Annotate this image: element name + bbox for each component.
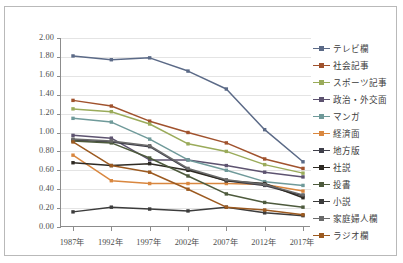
data-point-marker xyxy=(148,182,151,185)
data-point-marker xyxy=(263,201,266,204)
legend-color-swatch xyxy=(313,78,330,87)
data-point-marker xyxy=(110,110,113,113)
y-axis-tick-label: 1.40 xyxy=(39,89,54,98)
plot-area xyxy=(60,38,310,227)
legend-item[interactable]: マンガ xyxy=(313,108,360,124)
data-point-marker xyxy=(301,175,304,178)
legend-item[interactable]: 社説 xyxy=(313,159,351,175)
data-point-marker xyxy=(186,131,189,134)
series-テレビ欄 xyxy=(71,54,304,163)
legend-color-swatch xyxy=(313,163,330,172)
legend-item-label: 経済面 xyxy=(333,127,360,139)
legend-marker-icon xyxy=(319,97,324,102)
legend-color-swatch xyxy=(313,112,330,121)
legend-item[interactable]: テレビ欄 xyxy=(313,40,369,56)
data-point-marker xyxy=(225,169,228,172)
legend-item[interactable]: 政治・外交面 xyxy=(313,91,386,107)
data-point-marker xyxy=(263,128,266,131)
legend-color-swatch xyxy=(313,231,330,240)
legend-item[interactable]: 経済面 xyxy=(313,125,360,141)
y-axis-labels: 0.000.200.400.600.801.001.201.401.601.80… xyxy=(5,38,54,227)
x-axis-tick-label: 2007年 xyxy=(213,235,238,247)
data-point-marker xyxy=(71,153,74,156)
data-point-marker xyxy=(186,69,189,72)
data-point-marker xyxy=(263,183,266,186)
data-point-marker xyxy=(263,208,266,211)
chart-legend: テレビ欄社会記事スポーツ記事政治・外交面マンガ経済面地方版社説投書小説家庭婦人欄… xyxy=(313,40,399,248)
data-point-marker xyxy=(148,137,151,140)
data-point-marker xyxy=(71,161,74,164)
data-point-marker xyxy=(186,167,189,170)
legend-color-swatch xyxy=(313,197,330,206)
legend-item-label: 地方版 xyxy=(333,144,360,156)
data-point-marker xyxy=(71,117,74,120)
legend-item[interactable]: 地方版 xyxy=(313,142,360,158)
legend-item[interactable]: 社会記事 xyxy=(313,57,369,73)
data-point-marker xyxy=(110,205,113,208)
legend-item-label: ラジオ欄 xyxy=(333,229,369,241)
data-point-marker xyxy=(186,158,189,161)
legend-item-label: スポーツ記事 xyxy=(333,76,386,88)
y-axis-tick-label: 0.00 xyxy=(39,222,54,231)
legend-marker-icon xyxy=(319,216,324,221)
x-axis-tick-label: 2017年 xyxy=(290,235,315,247)
data-point-marker xyxy=(148,144,151,147)
x-axis-labels: 1987年1992年1997年2002年2007年2012年2017年 xyxy=(60,233,310,249)
data-point-marker xyxy=(301,213,304,216)
series-投書 xyxy=(71,139,304,209)
data-point-marker xyxy=(71,134,74,137)
legend-item-label: 政治・外交面 xyxy=(333,93,386,105)
data-point-marker xyxy=(71,54,74,57)
x-axis-tick xyxy=(226,227,227,231)
plot-area-wrapper xyxy=(60,38,310,227)
legend-item[interactable]: 投書 xyxy=(313,176,351,192)
y-axis-tick-label: 0.20 xyxy=(39,203,54,212)
data-point-marker xyxy=(225,178,228,181)
legend-marker-icon xyxy=(319,165,324,170)
legend-item[interactable]: 家庭婦人欄 xyxy=(313,210,378,226)
data-point-marker xyxy=(186,182,189,185)
legend-color-swatch xyxy=(313,146,330,155)
data-point-marker xyxy=(110,120,113,123)
data-point-marker xyxy=(148,162,151,165)
legend-item[interactable]: ラジオ欄 xyxy=(313,227,369,243)
y-axis-tick-label: 2.00 xyxy=(39,33,54,42)
data-point-marker xyxy=(110,58,113,61)
legend-item-label: 社説 xyxy=(333,161,351,173)
legend-marker-icon xyxy=(319,199,324,204)
legend-item-label: 投書 xyxy=(333,178,351,190)
data-point-marker xyxy=(186,174,189,177)
data-point-marker xyxy=(71,140,74,143)
data-point-marker xyxy=(225,150,228,153)
x-axis-tick xyxy=(188,227,189,231)
legend-item[interactable]: 小説 xyxy=(313,193,351,209)
data-point-marker xyxy=(186,209,189,212)
y-axis-tick-label: 0.80 xyxy=(39,146,54,155)
data-point-marker xyxy=(186,188,189,191)
series-line xyxy=(73,141,303,207)
legend-marker-icon xyxy=(319,80,324,85)
legend-item-label: 家庭婦人欄 xyxy=(333,212,378,224)
series-小説 xyxy=(71,205,304,217)
chart-screenshot: 0.000.200.400.600.801.001.201.401.601.80… xyxy=(0,0,403,263)
legend-marker-icon xyxy=(319,182,324,187)
data-point-marker xyxy=(148,56,151,59)
data-point-marker xyxy=(225,87,228,90)
data-point-marker xyxy=(71,99,74,102)
data-point-marker xyxy=(301,167,304,170)
legend-color-swatch xyxy=(313,214,330,223)
x-axis-tick xyxy=(73,227,74,231)
data-point-marker xyxy=(71,107,74,110)
legend-item[interactable]: スポーツ記事 xyxy=(313,74,386,90)
data-point-marker xyxy=(148,207,151,210)
data-series-lines xyxy=(61,38,311,227)
data-point-marker xyxy=(148,170,151,173)
legend-marker-icon xyxy=(319,114,324,119)
legend-item-label: マンガ xyxy=(333,110,360,122)
data-point-marker xyxy=(263,157,266,160)
x-axis-tick-label: 2012年 xyxy=(251,235,276,247)
chart-frame: 0.000.200.400.600.801.001.201.401.601.80… xyxy=(4,6,397,256)
data-point-marker xyxy=(263,170,266,173)
legend-color-swatch xyxy=(313,180,330,189)
y-axis-tick-label: 1.60 xyxy=(39,70,54,79)
